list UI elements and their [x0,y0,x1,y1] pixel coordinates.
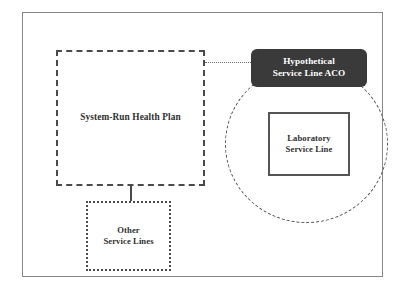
node-hypothetical-service-line-aco[interactable]: Hypothetical Service Line ACO [251,49,367,87]
diagram-canvas: System-Run Health Plan Other Service Lin… [0,0,406,290]
connector-health-plan-to-aco [205,62,253,63]
node-other-service-lines-label: Other Service Lines [103,225,153,247]
connector-health-plan-to-other-service-lines [130,185,132,202]
node-laboratory-service-line[interactable]: Laboratory Service Line [268,112,350,176]
node-hypothetical-service-line-aco-label: Hypothetical Service Line ACO [273,56,346,80]
node-other-service-lines[interactable]: Other Service Lines [86,201,171,271]
diagram-outer-frame: System-Run Health Plan Other Service Lin… [22,12,383,277]
node-system-run-health-plan[interactable]: System-Run Health Plan [56,50,205,186]
node-laboratory-service-line-label: Laboratory Service Line [286,133,333,155]
node-system-run-health-plan-label: System-Run Health Plan [80,112,180,124]
